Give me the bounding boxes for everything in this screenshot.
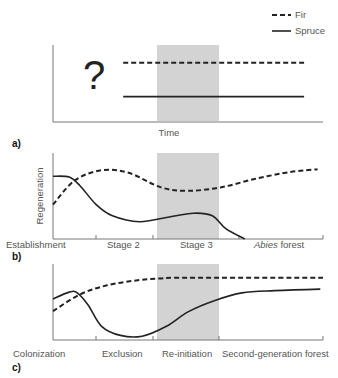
panel-b: Regeneration Establishment Stage 2 Stage…: [6, 153, 323, 262]
panel-c: Colonization Exclusion Re-initiation Sec…: [12, 264, 329, 373]
stage-label: Second-generation forest: [222, 348, 329, 359]
stage-label: Re-initiation: [162, 348, 212, 359]
panel-label: b): [12, 251, 21, 262]
question-mark: ?: [83, 53, 105, 97]
shaded-region: [157, 153, 219, 239]
stage-label-rest: forest: [278, 239, 305, 250]
y-axis-label: Regeneration: [34, 167, 45, 224]
stage-label: Establishment: [6, 239, 66, 250]
stage-label: Abies forest: [253, 239, 305, 250]
stage-label: Stage 3: [180, 239, 213, 250]
stage-label-italic: Abies: [253, 239, 278, 250]
legend-spruce-label: Spruce: [295, 25, 325, 36]
shaded-region: [157, 45, 219, 121]
panel-a: ? Time a): [12, 45, 323, 149]
succession-diagram: Fir Spruce ? Time a) Regeneration Establ…: [0, 0, 338, 378]
x-axis-label: Time: [159, 127, 180, 138]
legend-fir-label: Fir: [295, 9, 306, 20]
panel-label: a): [12, 138, 21, 149]
stage-label: Colonization: [13, 348, 65, 359]
legend: Fir Spruce: [272, 9, 325, 36]
stage-label: Exclusion: [102, 348, 143, 359]
stage-label: Stage 2: [107, 239, 140, 250]
panel-label: c): [12, 362, 21, 373]
